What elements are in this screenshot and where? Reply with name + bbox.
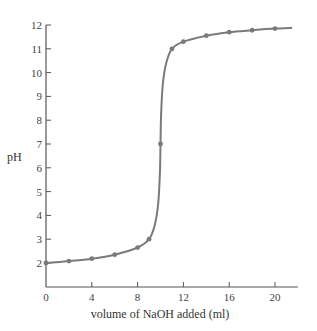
x-axis-ticks: 048121620: [43, 282, 281, 303]
data-point: [135, 245, 140, 250]
y-tick-label: 3: [37, 233, 43, 245]
y-tick-label: 5: [37, 186, 43, 198]
data-point: [170, 46, 175, 51]
titration-curve: [46, 28, 292, 263]
data-point: [273, 26, 278, 31]
data-point: [112, 252, 117, 257]
data-point: [89, 256, 94, 261]
y-tick-label: 8: [37, 114, 43, 126]
y-tick-label: 11: [31, 43, 42, 55]
data-point: [67, 259, 72, 264]
data-point: [250, 28, 255, 33]
x-tick-label: 16: [224, 291, 236, 303]
data-point: [227, 30, 232, 35]
data-point-markers: [44, 26, 278, 265]
x-tick-label: 4: [89, 291, 95, 303]
axes: [46, 25, 298, 287]
data-point: [44, 261, 49, 266]
x-tick-label: 12: [178, 291, 189, 303]
data-point: [147, 237, 152, 242]
data-point: [204, 33, 209, 38]
y-tick-label: 7: [37, 138, 43, 150]
data-point: [181, 39, 186, 44]
y-axis-ticks: 23456789101112: [31, 19, 51, 269]
y-tick-label: 4: [37, 209, 43, 221]
y-tick-label: 2: [37, 257, 43, 269]
y-tick-label: 12: [31, 19, 42, 31]
y-tick-label: 10: [31, 67, 43, 79]
x-tick-label: 20: [270, 291, 282, 303]
y-tick-label: 9: [37, 90, 43, 102]
y-axis-label: pH: [7, 150, 22, 164]
y-tick-label: 6: [37, 162, 43, 174]
titration-chart: 23456789101112 048121620 pH volume of Na…: [0, 0, 317, 331]
data-point: [158, 142, 163, 147]
x-tick-label: 0: [43, 291, 49, 303]
x-axis-label: volume of NaOH added (ml): [91, 307, 230, 321]
x-tick-label: 8: [135, 291, 141, 303]
